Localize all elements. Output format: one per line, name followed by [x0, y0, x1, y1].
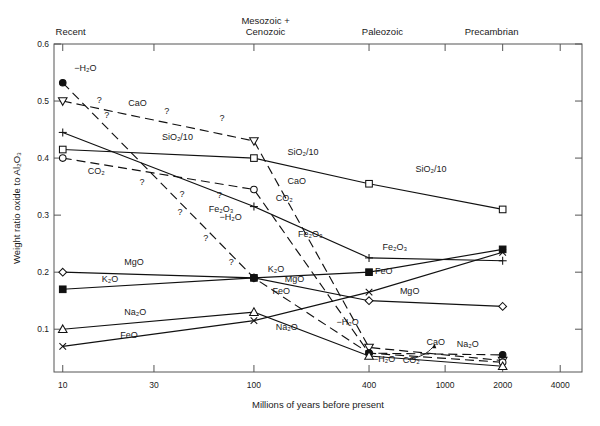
- data-point-square-open: [366, 180, 373, 187]
- series-label: −H₂O: [219, 212, 241, 222]
- series-label: FeO: [272, 286, 290, 296]
- era-label: Precambrian: [465, 26, 519, 37]
- series-label: FeO: [120, 330, 138, 340]
- uncertainty-question-mark: ?: [177, 207, 182, 217]
- era-label: Recent: [56, 26, 86, 37]
- data-point-plus: [59, 128, 67, 136]
- series-label: CaO: [427, 337, 446, 347]
- x-tick-label: 30: [149, 380, 159, 390]
- series-label: SiO₂/10: [162, 132, 193, 142]
- data-point-diamond-open: [499, 303, 507, 311]
- era-label: Cenozoic: [246, 26, 286, 37]
- data-point-square-filled: [366, 269, 373, 276]
- series-label: SiO₂/10: [288, 147, 319, 157]
- x-tick-label: 4000: [551, 380, 570, 390]
- y-tick-label: 0.2: [37, 267, 49, 277]
- data-point-plus: [499, 257, 507, 265]
- data-point-square-filled: [251, 275, 258, 282]
- series-label: MgO: [124, 257, 144, 267]
- uncertainty-question-mark: ?: [229, 257, 234, 267]
- x-tick-label: 10: [58, 380, 68, 390]
- data-point-triangle-down: [250, 138, 259, 146]
- uncertainty-question-mark: ?: [164, 106, 169, 116]
- series-label: −H₂O: [373, 354, 395, 364]
- uncertainty-question-mark: ?: [140, 177, 145, 187]
- series-label: Na₂O: [276, 322, 298, 332]
- y-tick-label: 0.3: [37, 210, 49, 220]
- uncertainty-question-mark: ?: [217, 190, 222, 200]
- series-label: Fe₂O₃: [382, 242, 407, 252]
- uncertainty-question-mark: ?: [97, 95, 102, 105]
- data-point-diamond-open: [365, 297, 373, 305]
- series-label: MgO: [400, 286, 420, 296]
- data-point-diamond-open: [59, 268, 67, 276]
- chart-svg: 10301004001000200040000.10.20.30.40.50.6…: [0, 0, 600, 426]
- series-label: FeO: [375, 266, 393, 276]
- uncertainty-question-mark: ?: [179, 189, 184, 199]
- uncertainty-question-mark: ?: [203, 233, 208, 243]
- data-point-square-open: [499, 206, 506, 213]
- era-label: Mesozoic +: [241, 15, 290, 26]
- data-point-plus: [365, 254, 373, 262]
- x-axis-title: Millions of years before present: [252, 399, 384, 410]
- figure-container: 10301004001000200040000.10.20.30.40.50.6…: [0, 0, 600, 426]
- uncertainty-question-mark: ?: [104, 110, 109, 120]
- data-point-square-filled: [59, 286, 66, 293]
- data-point-square-open: [251, 155, 258, 162]
- data-point-circle-filled: [59, 79, 66, 86]
- series-label: −H₂O: [336, 317, 358, 327]
- data-point-circle-open: [59, 155, 66, 162]
- series-label: K₂O: [268, 264, 285, 274]
- series-label: Na₂O: [457, 339, 479, 349]
- series-label: MgO: [285, 274, 305, 284]
- data-point-triangle-up: [250, 308, 259, 316]
- y-tick-label: 0.6: [37, 39, 49, 49]
- x-tick-label: 400: [362, 380, 376, 390]
- series-label: Na₂O: [124, 307, 146, 317]
- series-label: Fe₂O₃: [298, 229, 323, 239]
- y-tick-label: 0.1: [37, 324, 49, 334]
- era-label: Paleozoic: [362, 26, 403, 37]
- x-tick-label: 2000: [493, 380, 512, 390]
- x-tick-label: 1000: [436, 380, 455, 390]
- data-point-circle-filled: [499, 352, 506, 359]
- series-label: CO₂: [403, 355, 421, 365]
- data-point-square-open: [59, 146, 66, 153]
- uncertainty-question-mark: ?: [219, 113, 224, 123]
- data-point-circle-open: [251, 186, 258, 193]
- y-tick-label: 0.4: [37, 153, 49, 163]
- series-label: CO₂: [276, 193, 294, 203]
- series-label: CaO: [128, 98, 147, 108]
- series-label: −H₂O: [74, 63, 96, 73]
- y-axis-title: Weight ratio oxide to Al₂O₃: [11, 152, 22, 264]
- series-label: SiO₂/10: [415, 164, 446, 174]
- data-point-plus: [250, 203, 258, 211]
- y-tick-label: 0.5: [37, 96, 49, 106]
- series-label: CO₂: [88, 166, 106, 176]
- series-label: CaO: [288, 176, 307, 186]
- x-tick-label: 100: [247, 380, 261, 390]
- series-label: K₂O: [102, 274, 119, 284]
